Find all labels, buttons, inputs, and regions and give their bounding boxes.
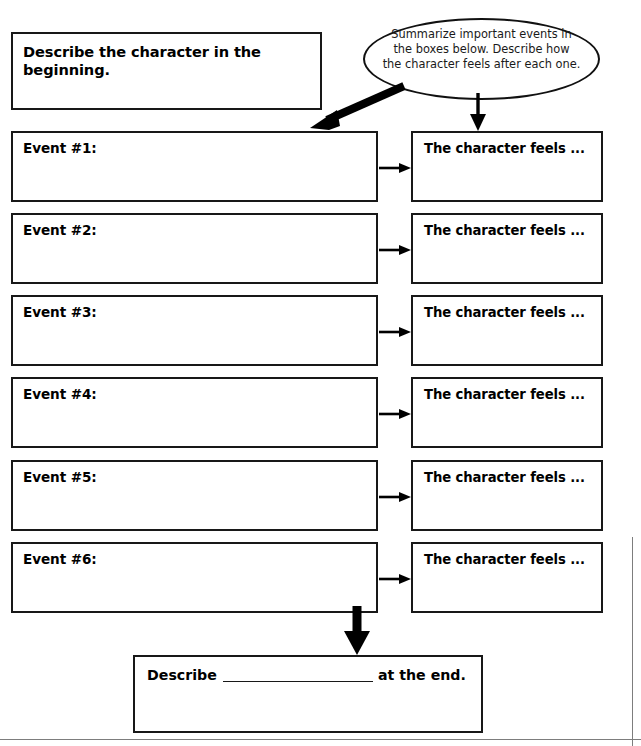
callout-line-2: the boxes below. Describe how [371, 42, 592, 57]
event-box-5[interactable]: Event #5: [11, 460, 378, 531]
instruction-callout-oval: Summarize important events in the boxes … [363, 18, 600, 100]
feels-box-6[interactable]: The character feels ... [411, 542, 603, 613]
page-rule-horizontal [0, 739, 641, 740]
event-to-feels-arrow-3 [379, 327, 411, 337]
event-label-3: Event #3: [13, 297, 376, 321]
instruction-callout-text: Summarize important events in the boxes … [371, 27, 592, 73]
feels-label-5: The character feels ... [413, 462, 601, 486]
event-to-feels-arrow-4 [379, 409, 411, 419]
feels-box-2[interactable]: The character feels ... [411, 213, 603, 284]
event6-to-ending-arrow [344, 606, 370, 655]
event-to-feels-arrow-1 [379, 163, 411, 173]
feels-label-6: The character feels ... [413, 544, 601, 568]
event-box-4[interactable]: Event #4: [11, 377, 378, 448]
event-to-feels-arrow-2 [379, 245, 411, 255]
event-to-feels-arrow-6 [379, 574, 411, 584]
event-box-2[interactable]: Event #2: [11, 213, 378, 284]
worksheet-canvas: Describe the character in the beginning.… [0, 0, 641, 746]
feels-box-3[interactable]: The character feels ... [411, 295, 603, 366]
callout-line-1: Summarize important events in [371, 27, 592, 42]
event-label-2: Event #2: [13, 215, 376, 239]
ending-prefix-label: Describe [147, 667, 217, 683]
ending-suffix-label: at the end. [378, 667, 466, 683]
event-label-5: Event #5: [13, 462, 376, 486]
arrow-layer [0, 0, 641, 746]
page-rule-vertical [632, 537, 633, 746]
describe-beginning-label: Describe the character in the beginning. [13, 34, 320, 79]
event-label-1: Event #1: [13, 133, 376, 157]
ending-blank-rule[interactable] [223, 681, 373, 682]
event-box-3[interactable]: Event #3: [11, 295, 378, 366]
event-box-6[interactable]: Event #6: [11, 542, 378, 613]
feels-label-3: The character feels ... [413, 297, 601, 321]
event-to-feels-arrow-5 [379, 492, 411, 502]
feels-label-2: The character feels ... [413, 215, 601, 239]
describe-beginning-box[interactable]: Describe the character in the beginning. [11, 32, 322, 110]
feels-box-5[interactable]: The character feels ... [411, 460, 603, 531]
feels-label-1: The character feels ... [413, 133, 601, 157]
describe-ending-box[interactable]: Describeat the end. [133, 655, 483, 733]
callout-line-3: the character feels after each one. [371, 57, 592, 72]
feels-box-4[interactable]: The character feels ... [411, 377, 603, 448]
feels-label-4: The character feels ... [413, 379, 601, 403]
event-label-4: Event #4: [13, 379, 376, 403]
feels-box-1[interactable]: The character feels ... [411, 131, 603, 202]
event-label-6: Event #6: [13, 544, 376, 568]
event-box-1[interactable]: Event #1: [11, 131, 378, 202]
describe-ending-line: Describeat the end. [135, 657, 481, 685]
